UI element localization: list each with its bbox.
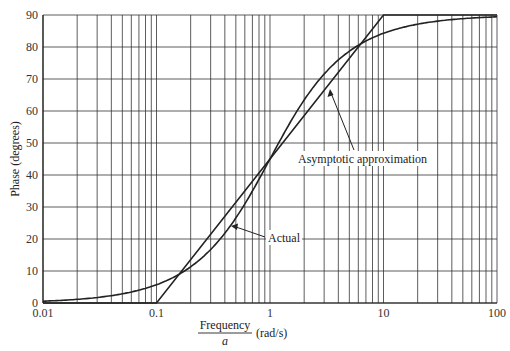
y-tick-label: 10 xyxy=(26,264,38,278)
x-axis-label-denominator: a xyxy=(222,334,228,348)
y-tick-label: 50 xyxy=(26,136,38,150)
x-axis-label-numerator: Frequency xyxy=(200,318,251,332)
y-tick-label: 30 xyxy=(26,200,38,214)
x-axis-label-units: (rad/s) xyxy=(256,326,287,340)
annotation-asymptotic-label: Asymptotic approximation xyxy=(298,152,427,166)
annotation-actual: Actual xyxy=(231,224,302,246)
x-tick-label: 0.01 xyxy=(33,306,54,320)
x-tick-label: 1 xyxy=(267,306,273,320)
x-tick-label: 100 xyxy=(488,306,506,320)
y-tick-label: 80 xyxy=(26,40,38,54)
x-axis-label: Frequency a (rad/s) xyxy=(198,318,287,348)
x-tick-label: 0.1 xyxy=(149,306,164,320)
y-axis-label: Phase (degrees) xyxy=(8,121,22,197)
y-tick-label: 20 xyxy=(26,232,38,246)
phase-plot: 01020304050607080900.010.1110100 Asympto… xyxy=(0,0,510,351)
y-tick-label: 40 xyxy=(26,168,38,182)
annotation-actual-label: Actual xyxy=(268,231,301,245)
y-tick-label: 60 xyxy=(26,104,38,118)
x-tick-label: 10 xyxy=(378,306,390,320)
y-tick-label: 90 xyxy=(26,8,38,22)
y-tick-label: 70 xyxy=(26,72,38,86)
